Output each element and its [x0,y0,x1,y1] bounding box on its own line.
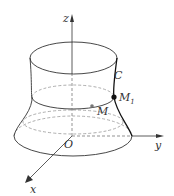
top-ellipse [30,42,117,74]
y-arrow-icon [156,134,164,138]
z-arrow-icon [70,14,74,22]
point-m1 [111,94,116,99]
point-m [90,104,94,108]
left-profile [14,58,32,136]
m1-label: M1 [118,91,135,106]
bottom-ellipse-back [14,116,132,136]
y-label: y [154,139,162,152]
origin-label: O [64,138,73,151]
m-label: M [96,105,109,118]
x-label: x [30,183,37,196]
z-label: z [62,12,69,25]
surface-diagram: z y x O C M1 M [0,0,174,196]
middle-ellipse-back [32,85,114,97]
curve-label: C [114,69,123,82]
